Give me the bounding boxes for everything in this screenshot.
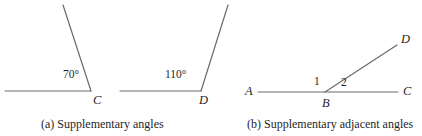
angle-110-slanted-ray	[201, 5, 228, 91]
vertex-label-c-left: C	[93, 94, 101, 107]
geometry-figure: 70° C 110° D A B C D 1 2 (a) Supplementa…	[0, 0, 422, 136]
angle-measure-110: 110°	[165, 69, 186, 81]
angle-number-2: 2	[341, 77, 347, 89]
point-label-a: A	[245, 85, 253, 98]
vertex-label-d-left: D	[199, 94, 208, 107]
point-label-b: B	[322, 97, 330, 110]
caption-panel-b: (b) Supplementary adjacent angles	[247, 118, 413, 130]
angle-measure-70: 70°	[63, 69, 79, 81]
caption-panel-a: (a) Supplementary angles	[41, 118, 164, 130]
adjacent-angles-figure	[258, 45, 398, 92]
ray-bd	[325, 45, 397, 92]
point-label-c: C	[403, 85, 411, 98]
angle-number-1: 1	[314, 76, 320, 88]
point-label-d: D	[401, 33, 410, 46]
